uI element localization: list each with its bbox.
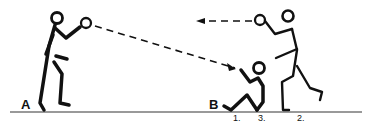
pass-arrowhead-icon [227,63,236,71]
label-pos3: 3. [258,113,266,123]
pass-line [95,26,235,68]
figure-a [40,13,80,111]
ball-b [255,15,265,25]
illustration: A B 1. 3. 2. [0,0,369,130]
figure-2 [265,11,322,111]
return-arrowhead-icon [196,18,205,24]
label-pos2: 2. [297,113,305,123]
ball-a [81,18,91,28]
label-b: B [209,97,218,112]
label-a: A [21,97,30,112]
stick-figure-diagram [0,0,369,130]
label-pos1: 1. [233,113,241,123]
